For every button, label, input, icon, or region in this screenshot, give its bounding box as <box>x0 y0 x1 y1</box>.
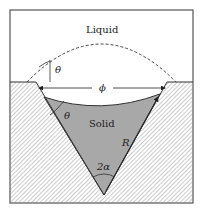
groove-angle-label: 2α <box>96 161 110 172</box>
theta-label-top: θ <box>55 64 61 75</box>
liquid-label: Liquid <box>86 24 119 35</box>
solid-label: Solid <box>89 118 115 129</box>
theta-label-solid: θ <box>64 110 70 121</box>
diameter-label: ϕ <box>99 82 106 93</box>
radius-label: R <box>121 137 130 148</box>
diagram-canvas: θ ϕ θ R 2α Liquid Solid <box>0 0 203 214</box>
